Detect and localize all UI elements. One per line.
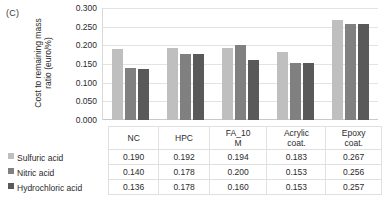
bar (235, 45, 246, 120)
table-row: Hydrochloric acid0.1360.1780.1600.1530.2… (4, 180, 382, 195)
bar (125, 68, 136, 120)
data-table: NCHPCFA_10MAcryliccoat.Epoxycoat. Sulfur… (4, 126, 382, 195)
bar-chart: 0.3000.2500.2000.1500.1000.0500.000 (60, 8, 380, 130)
y-axis-tick: 0.100 (76, 78, 97, 87)
table-cell: 0.140 (109, 165, 159, 180)
table-column-header: FA_10M (209, 127, 267, 150)
bar (112, 49, 123, 120)
bar (345, 24, 356, 120)
y-axis-tick: 0.050 (76, 97, 97, 106)
y-axis-tick: 0.200 (76, 41, 97, 50)
legend-swatch-icon (8, 183, 14, 189)
bar (332, 20, 343, 120)
y-axis-tick: 0.150 (76, 60, 97, 69)
legend-entry: Hydrochloric acid (4, 180, 109, 195)
bar (290, 63, 301, 120)
bar (303, 63, 314, 120)
bar (358, 24, 369, 120)
table-cell: 0.192 (159, 150, 209, 165)
y-axis-tick: 0.300 (76, 4, 97, 13)
table-column-header: Acryliccoat. (267, 127, 326, 150)
legend-swatch-icon (8, 168, 14, 174)
table-cell: 0.200 (209, 165, 267, 180)
table-cell: 0.194 (209, 150, 267, 165)
y-axis-tick-labels: 0.3000.2500.2000.1500.1000.0500.000 (60, 8, 100, 120)
legend-entry: Sulfuric acid (4, 150, 109, 165)
legend-label: Hydrochloric acid (17, 182, 82, 192)
table-cell: 0.183 (267, 150, 326, 165)
legend-swatch-icon (8, 153, 14, 159)
legend-label: Sulfuric acid (17, 152, 63, 162)
bar (222, 48, 233, 120)
y-axis-tick: 0.250 (76, 22, 97, 31)
table-cell: 0.257 (326, 180, 382, 195)
table-cell: 0.267 (326, 150, 382, 165)
table-body: Sulfuric acid0.1900.1920.1940.1830.267Ni… (4, 150, 382, 195)
table-column-header: NC (109, 127, 159, 150)
bar (167, 48, 178, 120)
bar-group (213, 8, 268, 120)
table-cell: 0.136 (109, 180, 159, 195)
chart-panel: (C) Cost to remaining mass ratio (euro/%… (0, 0, 386, 209)
table-cell: 0.178 (159, 180, 209, 195)
table-corner-cell (4, 127, 109, 150)
table-cell: 0.153 (267, 180, 326, 195)
bar-group (103, 8, 158, 120)
bar (277, 52, 288, 120)
y-axis-title-wrapper: Cost to remaining mass ratio (euro/%) (28, 8, 58, 128)
bar (193, 54, 204, 120)
table-cell: 0.153 (267, 165, 326, 180)
legend-entry: Nitric acid (4, 165, 109, 180)
table-cell: 0.190 (109, 150, 159, 165)
table-column-header: Epoxycoat. (326, 127, 382, 150)
bar (248, 60, 259, 120)
table-row: Sulfuric acid0.1900.1920.1940.1830.267 (4, 150, 382, 165)
table-cell: 0.178 (159, 165, 209, 180)
table-row: Nitric acid0.1400.1780.2000.1530.256 (4, 165, 382, 180)
table-cell: 0.160 (209, 180, 267, 195)
bar-group (268, 8, 323, 120)
bar-group (158, 8, 213, 120)
table-column-header: HPC (159, 127, 209, 150)
legend-label: Nitric acid (17, 167, 54, 177)
y-axis-tick: 0.000 (76, 116, 97, 125)
table-cell: 0.256 (326, 165, 382, 180)
y-axis-title: Cost to remaining mass ratio (euro/%) (33, 3, 53, 123)
panel-label: (C) (6, 8, 19, 18)
table-header-row: NCHPCFA_10MAcryliccoat.Epoxycoat. (4, 127, 382, 150)
bar-groups (103, 8, 378, 120)
bar (180, 54, 191, 120)
plot-area (102, 8, 378, 120)
bar (138, 69, 149, 120)
bar-group (323, 8, 378, 120)
